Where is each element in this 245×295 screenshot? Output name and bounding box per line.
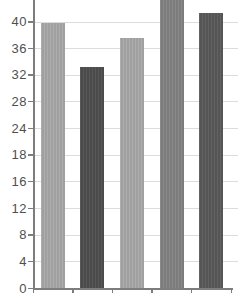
bar xyxy=(199,13,223,288)
bar xyxy=(41,23,65,288)
y-axis-tick-label: 12 xyxy=(0,202,27,215)
y-axis-tick-label: 24 xyxy=(0,122,27,135)
bar-chart: 0481216182428323640 xyxy=(0,0,245,295)
bar xyxy=(80,67,104,288)
y-axis-tick-label: 32 xyxy=(0,68,27,81)
y-axis-tick-label: 18 xyxy=(0,148,27,161)
y-axis-tick-label: 0 xyxy=(0,282,27,295)
y-axis-tick-label: 4 xyxy=(0,255,27,268)
y-axis-line xyxy=(33,0,35,290)
y-axis-tick-label: 36 xyxy=(0,42,27,55)
bar xyxy=(160,0,184,288)
bar xyxy=(120,38,144,288)
x-axis-line xyxy=(33,288,233,290)
y-axis-tick-label: 40 xyxy=(0,15,27,28)
plot-area: 0481216182428323640 xyxy=(0,0,245,295)
y-axis-tick-label: 16 xyxy=(0,175,27,188)
y-axis-tick-label: 28 xyxy=(0,95,27,108)
y-axis-tick-label: 8 xyxy=(0,228,27,241)
